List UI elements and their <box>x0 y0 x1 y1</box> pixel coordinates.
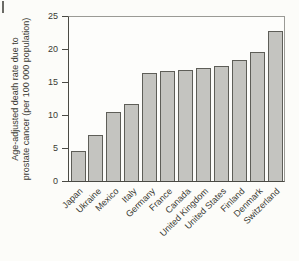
bar-japan <box>71 151 86 181</box>
y-axis-title: Age-adjusted death rate due to prostate … <box>10 18 32 181</box>
y-tick-label-0: 0 <box>34 176 58 187</box>
bar-ukraine <box>88 135 103 181</box>
bar-switzerland <box>268 31 283 181</box>
scan-artifact-mark <box>2 1 4 13</box>
bar-canada <box>178 70 193 182</box>
y-tick-mark-0 <box>62 181 68 182</box>
y-tick-mark-25 <box>62 16 68 17</box>
y-tick-label-10: 10 <box>34 110 58 121</box>
bar-united-states <box>214 66 229 182</box>
bar-germany <box>142 73 157 181</box>
plot-area <box>68 16 285 182</box>
bar-italy <box>124 104 139 181</box>
y-tick-mark-10 <box>62 115 68 116</box>
y-tick-label-20: 20 <box>34 44 58 55</box>
y-tick-label-15: 15 <box>34 77 58 88</box>
y-tick-label-5: 5 <box>34 143 58 154</box>
y-tick-label-25: 25 <box>34 11 58 22</box>
bar-united-kingdom <box>196 68 211 181</box>
bar-finland <box>232 60 247 181</box>
bar-denmark <box>250 52 265 181</box>
bar-france <box>160 71 175 181</box>
y-tick-mark-20 <box>62 49 68 50</box>
y-tick-mark-5 <box>62 148 68 149</box>
bar-mexico <box>106 112 121 182</box>
prostate-cancer-death-rate-chart: Age-adjusted death rate due to prostate … <box>0 0 299 261</box>
y-tick-mark-15 <box>62 82 68 83</box>
y-axis-title-line-2: prostate cancer (per 100 000 population) <box>21 18 32 181</box>
y-axis-title-line-1: Age-adjusted death rate due to <box>10 18 21 181</box>
